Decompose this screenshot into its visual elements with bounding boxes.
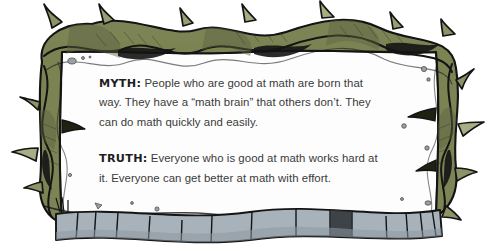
illustration-container: MYTH: People who are good at math are bo… bbox=[0, 0, 492, 251]
truth-paragraph: TRUTH: Everyone who is good at math work… bbox=[99, 149, 381, 188]
myth-label: MYTH: bbox=[99, 77, 141, 90]
card-text-block: MYTH: People who are good at math are bo… bbox=[99, 74, 381, 188]
truth-label: TRUTH: bbox=[99, 152, 148, 165]
myth-paragraph: MYTH: People who are good at math are bo… bbox=[99, 74, 381, 132]
